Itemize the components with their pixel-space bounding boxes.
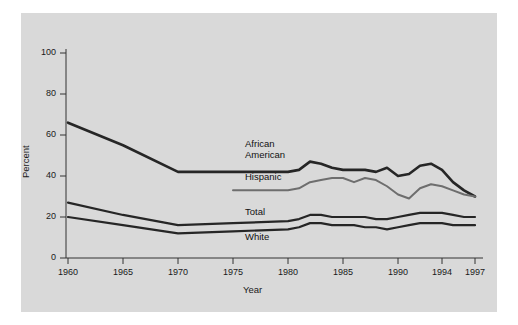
- series-label-line-2: American: [245, 149, 285, 160]
- y-tick-label: 60: [22, 129, 56, 139]
- chart-figure: 020406080100 196019651970197519801985199…: [0, 0, 518, 325]
- x-tick-label: 1960: [48, 267, 88, 277]
- x-tick-label: 1997: [455, 267, 495, 277]
- x-tick-label: 1980: [268, 267, 308, 277]
- x-tick-label: 1975: [213, 267, 253, 277]
- series-label-line-1: African: [245, 138, 285, 149]
- series-label-total: Total: [245, 206, 265, 217]
- y-tick-label: 20: [22, 211, 56, 221]
- y-tick-label: 0: [22, 252, 56, 262]
- x-axis-title: Year: [243, 284, 262, 295]
- y-tick-label: 100: [22, 47, 56, 57]
- x-tick-label: 1965: [103, 267, 143, 277]
- series-label-african-american: African American: [245, 138, 285, 160]
- series-line-total: [68, 203, 475, 226]
- y-tick-label: 80: [22, 88, 56, 98]
- x-tick-label: 1970: [158, 267, 198, 277]
- series-line-white: [68, 217, 475, 233]
- series-label-hispanic: Hispanic: [245, 171, 281, 182]
- x-tick-label: 1985: [323, 267, 363, 277]
- series-label-white: White: [245, 231, 269, 242]
- x-tick-label: 1990: [378, 267, 418, 277]
- y-axis-title: Percent: [20, 145, 31, 178]
